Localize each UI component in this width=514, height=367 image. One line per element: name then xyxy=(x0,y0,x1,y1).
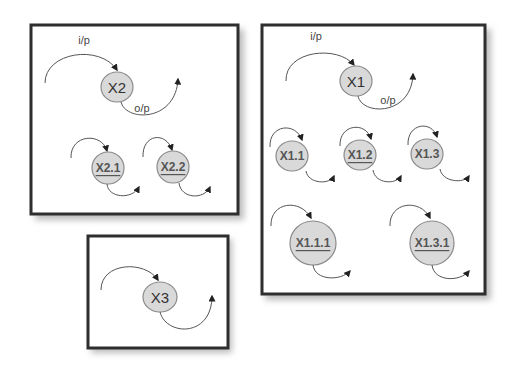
node-x1-1-label: X1.1 xyxy=(280,149,305,163)
node-x2-label: X2 xyxy=(108,79,126,96)
decomposition-diagram: i/p X2 o/p X2.1 X2.2 i/p X1 o/p X1.1 X1.… xyxy=(0,0,514,367)
node-x1-1-1-label: X1.1.1 xyxy=(296,236,331,250)
node-x2-1-label: X2.1 xyxy=(96,161,121,175)
output-label: o/p xyxy=(380,94,395,106)
box-x3: X3 xyxy=(88,236,232,353)
input-label: i/p xyxy=(78,34,90,46)
input-label: i/p xyxy=(310,30,322,42)
node-x2-2-label: X2.2 xyxy=(161,160,186,174)
node-x1-3-1-label: X1.3.1 xyxy=(415,236,450,250)
node-x3-label: X3 xyxy=(151,289,169,306)
node-x1-label: X1 xyxy=(347,73,365,90)
box-frame xyxy=(31,25,238,214)
box-x1: i/p X1 o/p X1.1 X1.2 X1.3 X1.1.1 X1.3.1 xyxy=(262,25,491,300)
node-x1-3-label: X1.3 xyxy=(415,147,440,161)
output-label: o/p xyxy=(134,102,149,114)
box-x2: i/p X2 o/p X2.1 X2.2 xyxy=(31,25,244,220)
node-x1-2-label: X1.2 xyxy=(348,148,373,162)
